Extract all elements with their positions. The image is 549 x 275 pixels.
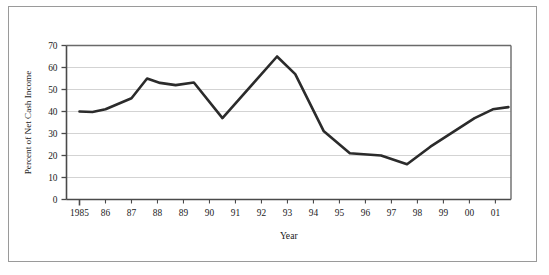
y-axis-title: Percent of Net Cash Income	[23, 71, 33, 175]
x-axis-ticks: 198586878889909192939495969798990001	[70, 200, 500, 219]
data-series-line	[80, 57, 509, 165]
y-tick-label: 50	[48, 85, 58, 95]
line-chart: 0102030405060701985868788899091929394959…	[0, 0, 549, 275]
figure-container: 0102030405060701985868788899091929394959…	[0, 0, 549, 275]
x-axis-title: Year	[280, 230, 298, 241]
x-tick-label: 93	[283, 208, 293, 218]
y-tick-label: 10	[48, 173, 58, 183]
x-tick-label: 99	[439, 208, 449, 218]
x-tick-label: 94	[309, 208, 319, 218]
x-tick-label: 87	[127, 208, 137, 218]
y-tick-label: 0	[53, 195, 58, 205]
y-tick-label: 40	[48, 107, 58, 117]
gridlines	[67, 46, 512, 178]
y-tick-label: 70	[48, 41, 58, 51]
y-tick-label: 20	[48, 151, 58, 161]
x-tick-label: 86	[101, 208, 111, 218]
x-tick-label: 92	[257, 208, 267, 218]
x-tick-label: 91	[231, 208, 241, 218]
y-tick-label: 60	[48, 63, 58, 73]
x-tick-label: 89	[179, 208, 189, 218]
x-tick-label: 98	[413, 208, 423, 218]
x-tick-label: 1985	[70, 208, 89, 218]
x-tick-label: 01	[491, 208, 501, 218]
x-tick-label: 88	[153, 208, 163, 218]
x-tick-label: 90	[205, 208, 215, 218]
y-axis-ticks: 010203040506070	[48, 41, 66, 205]
x-tick-label: 00	[465, 208, 475, 218]
x-tick-label: 96	[361, 208, 371, 218]
x-tick-label: 95	[335, 208, 345, 218]
y-tick-label: 30	[48, 129, 58, 139]
x-tick-label: 97	[387, 208, 397, 218]
